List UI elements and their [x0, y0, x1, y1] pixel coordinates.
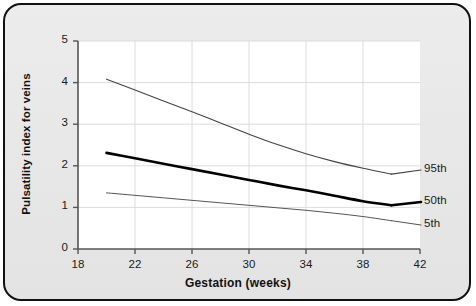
- x-tick-label: 38: [348, 258, 378, 270]
- series-label-50th: 50th: [424, 194, 447, 206]
- series-leader-lines: [392, 170, 422, 225]
- y-tick-label: 0: [46, 241, 68, 253]
- y-tick-label: 3: [46, 116, 68, 128]
- y-tick-label: 2: [46, 158, 68, 170]
- x-tick-label: 22: [120, 258, 150, 270]
- leader-line-95th: [392, 170, 422, 174]
- leader-line-50th: [392, 202, 422, 205]
- x-tick-label: 30: [234, 258, 264, 270]
- figure-root: 012345 18222630343842 Pulsatility index …: [0, 0, 476, 306]
- x-tick-label: 26: [177, 258, 207, 270]
- x-tick-label: 42: [405, 258, 435, 270]
- series-label-95th: 95th: [424, 162, 447, 174]
- x-tick-label: 18: [63, 258, 93, 270]
- y-tick-label: 4: [46, 75, 68, 87]
- axis-ticks: [73, 41, 420, 254]
- y-axis-title: Pulsatility index for veins: [20, 54, 32, 234]
- y-tick-label: 1: [46, 199, 68, 211]
- x-axis-title: Gestation (weeks): [0, 276, 476, 290]
- y-tick-label: 5: [46, 33, 68, 45]
- leader-line-5th: [392, 221, 422, 225]
- series-label-5th: 5th: [424, 217, 440, 229]
- x-tick-label: 34: [291, 258, 321, 270]
